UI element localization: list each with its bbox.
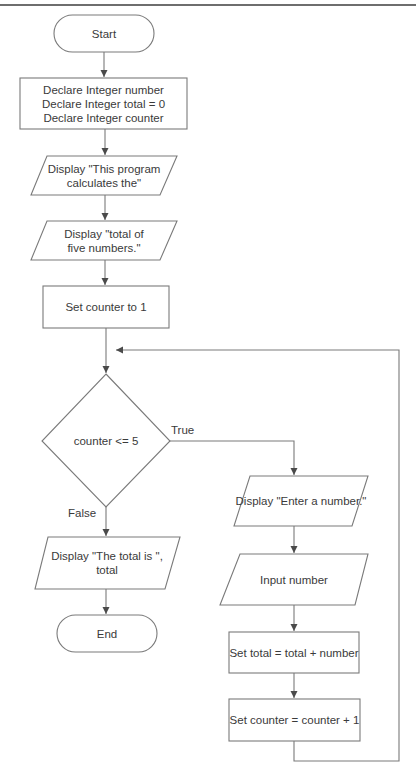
display1-label: Display "This program calculates the" xyxy=(48,162,161,190)
increment-label: Set counter = counter + 1 xyxy=(230,713,360,727)
declare-label: Declare Integer number Declare Integer t… xyxy=(42,83,165,125)
start-label: Start xyxy=(92,27,116,41)
display-enter-label: Display "Enter a number." xyxy=(236,494,367,508)
declare-line-3: Declare Integer counter xyxy=(42,111,165,125)
false-label: False xyxy=(68,506,96,520)
set-total-label: Set total = total + number xyxy=(229,646,358,660)
display2-line-2: five numbers." xyxy=(64,241,144,255)
display-total-line-1: Display "The total is ", xyxy=(51,549,163,563)
input-number-label: Input number xyxy=(260,573,328,587)
display2-line-1: Display "total of xyxy=(64,227,144,241)
display-total-label: Display "The total is ", total xyxy=(51,549,163,577)
declare-line-2: Declare Integer total = 0 xyxy=(42,97,165,111)
true-label: True xyxy=(171,423,194,437)
display1-line-1: Display "This program xyxy=(48,162,161,176)
display1-line-2: calculates the" xyxy=(48,176,161,190)
decision-label: counter <= 5 xyxy=(74,434,139,448)
end-label: End xyxy=(97,627,117,641)
set-counter-label: Set counter to 1 xyxy=(65,300,146,314)
edge-true xyxy=(170,441,294,475)
display2-label: Display "total of five numbers." xyxy=(64,227,144,255)
display-total-line-2: total xyxy=(51,563,163,577)
declare-line-1: Declare Integer number xyxy=(42,83,165,97)
